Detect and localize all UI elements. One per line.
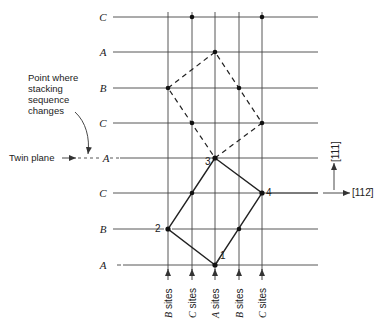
row-label-a: A: [96, 46, 110, 58]
row-label-a-twin-plane: A: [99, 152, 113, 164]
annotation-line: Point where: [28, 72, 78, 83]
annotation-line: changes: [28, 105, 78, 116]
point-label-2: 2: [155, 224, 161, 234]
row-label-b: B: [96, 82, 110, 94]
stacking-fault-twin-diagram: C A B C A C B A Point where stacking seq…: [0, 0, 384, 325]
annotation-line: sequence: [28, 94, 78, 105]
point-label-3: 3: [205, 157, 211, 167]
site-label-c: C sites: [187, 288, 198, 318]
row-label-a-bottom: A: [96, 259, 110, 271]
row-label-c-lower: C: [96, 187, 110, 199]
stacking-change-annotation: Point where stacking sequence changes: [28, 72, 78, 116]
point-label-1: 1: [220, 251, 226, 261]
point-label-4: 4: [266, 188, 272, 198]
row-label-c-top: C: [96, 11, 110, 23]
row-label-b-lower: B: [96, 223, 110, 235]
site-arrows: [168, 269, 262, 280]
site-label-c-right: C sites: [257, 288, 268, 318]
stacking-change-arrow: [75, 112, 88, 154]
site-label-a: A sites: [210, 289, 221, 318]
row-label-c: C: [96, 117, 110, 129]
site-label-b: B sites: [163, 289, 174, 318]
site-label-b-right: B sites: [234, 289, 245, 318]
direction-112bar-label: [112̄]: [352, 187, 374, 198]
direction-111-label: [111]: [330, 141, 341, 162]
annotation-line: stacking: [28, 83, 78, 94]
twin-plane-label: Twin plane: [9, 152, 54, 163]
